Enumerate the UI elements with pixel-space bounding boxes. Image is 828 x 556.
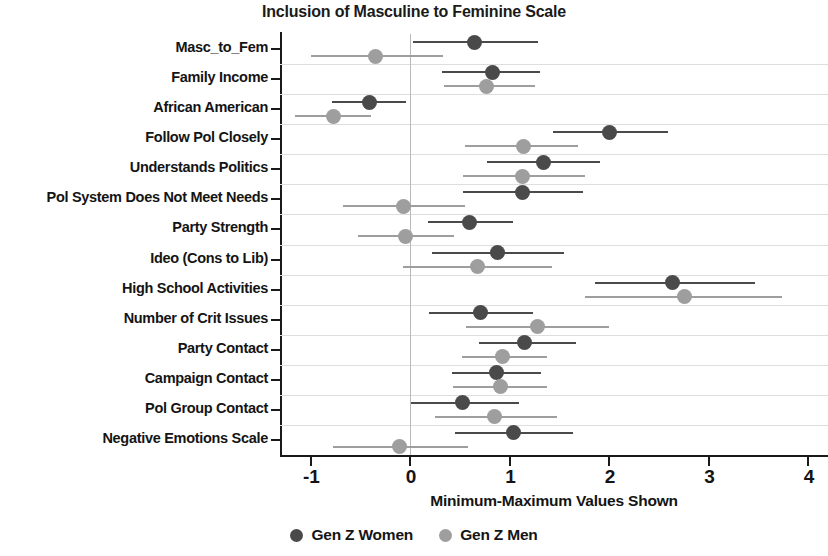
legend-item: Gen Z Men [439,526,537,544]
gridline [280,124,828,125]
data-point [536,155,551,170]
y-axis-label: Campaign Contact [0,370,268,386]
gridline [280,275,828,276]
x-tick-0 [310,457,312,466]
data-point [485,65,500,80]
x-tick-label: 1 [491,466,531,488]
data-point [490,245,505,260]
y-axis-label: Negative Emotions Scale [0,430,268,446]
y-axis-label: Family Income [0,69,268,85]
y-axis-label: Pol Group Contact [0,400,268,416]
legend-label: Gen Z Men [460,526,537,544]
x-tick-label: 0 [391,466,431,488]
data-point [462,215,477,230]
data-point [677,289,692,304]
data-point [473,305,488,320]
y-axis-label: Masc_to_Fem [0,39,268,55]
data-point [396,199,411,214]
x-axis-spine [280,455,828,457]
chart-title: Inclusion of Masculine to Feminine Scale [0,3,828,21]
data-point [495,349,510,364]
legend-label: Gen Z Women [311,526,413,544]
data-point [487,409,502,424]
gridline [280,214,828,215]
y-axis-label: Pol System Does Not Meet Needs [0,189,268,205]
y-axis-label: African American [0,99,268,115]
x-tick-1 [409,457,411,466]
data-point [368,49,383,64]
chart-legend: Gen Z WomenGen Z Men [0,526,828,544]
legend-marker-icon [290,529,303,542]
x-tick-label: 3 [690,466,730,488]
data-point [515,169,530,184]
plot-area [280,34,828,455]
data-point [489,365,504,380]
data-point [392,439,407,454]
x-tick-4 [708,457,710,466]
data-point [493,379,508,394]
y-axis-label: Ideo (Cons to Lib) [0,250,268,266]
gridline [280,365,828,366]
y-axis-label: Party Strength [0,219,268,235]
y-axis-label: Number of Crit Issues [0,310,268,326]
gridline [280,64,828,65]
x-tick-label: 2 [590,466,630,488]
data-point [665,275,680,290]
gridline [280,305,828,306]
data-point [506,425,521,440]
data-point [455,395,470,410]
data-point [515,185,530,200]
data-point [362,95,377,110]
gridline [280,335,828,336]
gridline [280,94,828,95]
coefficient-plot-figure: Inclusion of Masculine to Feminine Scale… [0,0,828,556]
y-axis-label: Party Contact [0,340,268,356]
gridline [280,425,828,426]
data-point [517,335,532,350]
data-point [470,259,485,274]
x-tick-2 [509,457,511,466]
data-point [398,229,413,244]
y-axis-label: Follow Pol Closely [0,129,268,145]
gridline [280,245,828,246]
data-point [326,109,341,124]
data-point [530,319,545,334]
x-tick-label: -1 [292,466,332,488]
y-axis-category-labels: Masc_to_FemFamily IncomeAfrican American… [0,34,268,455]
data-point [516,139,531,154]
y-axis-label: Understands Politics [0,159,268,175]
x-tick-label: 4 [789,466,828,488]
gridline [280,154,828,155]
gridline [280,395,828,396]
data-point [467,35,482,50]
legend-marker-icon [439,529,452,542]
data-point [479,79,494,94]
x-axis-title: Minimum-Maximum Values Shown [280,492,828,510]
data-point [602,125,617,140]
legend-item: Gen Z Women [290,526,413,544]
x-tick-5 [807,457,809,466]
zero-reference-line [410,34,411,455]
gridline [280,184,828,185]
y-axis-label: High School Activities [0,280,268,296]
x-tick-3 [608,457,610,466]
